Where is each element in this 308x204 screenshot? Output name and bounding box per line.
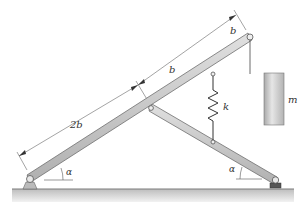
ground [12,189,294,202]
spring [208,75,218,140]
mechanism-diagram: 2b b b m k α [0,0,308,204]
angle-label-left: α [66,167,72,177]
mass-block [264,73,284,125]
top-pin [247,34,253,40]
spring-label-k: k [223,101,229,112]
middle-pin [149,106,154,111]
mass-label: m [288,94,297,105]
dimension-label-b-mid: b [169,64,175,75]
spring-bottom-pin [211,140,215,144]
spring-top-pin [211,72,215,76]
dimension-label-b-top: b [230,25,236,36]
long-link [27,33,252,182]
dimension-label-2b: 2b [69,119,83,130]
angle-label-right: α [229,164,235,174]
